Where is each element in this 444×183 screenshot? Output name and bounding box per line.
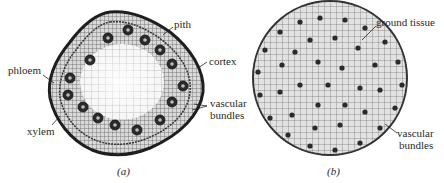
label-vascular-bundles-a-line1: vascular <box>210 97 247 109</box>
label-vascular-bundles-b-line1: vascular <box>397 127 434 139</box>
label-phloem: phloem <box>8 64 41 76</box>
label-xylem: xylem <box>27 125 55 137</box>
dicot-cross-section <box>43 12 207 155</box>
label-pith: pith <box>174 18 191 30</box>
caption-a: (a) <box>117 165 130 177</box>
label-ground-tissue: ground tissue <box>376 16 435 28</box>
stem-cross-section-figure: pith cortex phloem xylem vascular bundle… <box>0 0 444 183</box>
caption-b: (b) <box>327 165 340 177</box>
label-vascular-bundles-a-line2: bundles <box>210 109 244 121</box>
label-vascular-bundles-b-line2: bundles <box>399 139 433 151</box>
label-cortex: cortex <box>209 55 236 67</box>
